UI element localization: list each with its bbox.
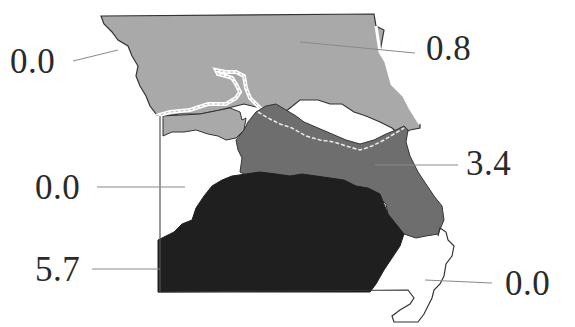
region-south xyxy=(158,172,404,292)
value-label-east-central: 3.4 xyxy=(466,146,511,181)
value-label-northwest: 0.0 xyxy=(10,44,55,79)
value-label-west-central: 0.0 xyxy=(35,170,80,205)
value-label-north: 0.8 xyxy=(426,31,471,66)
leader-line-northwest xyxy=(73,50,118,61)
value-label-south: 5.7 xyxy=(35,252,80,287)
value-label-southeast: 0.0 xyxy=(505,266,550,301)
missouri-choropleth-map: 0.0 0.8 3.4 0.0 5.7 0.0 xyxy=(0,0,575,327)
leader-line-southeast xyxy=(425,280,492,283)
